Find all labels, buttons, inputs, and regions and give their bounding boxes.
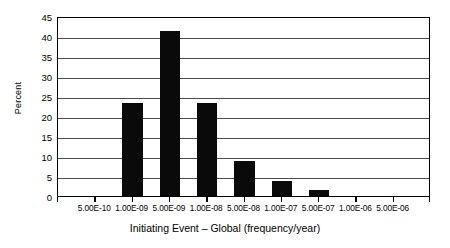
x-axis-tick	[281, 197, 282, 202]
y-axis-tick-label: 45	[41, 12, 52, 23]
bar	[197, 103, 218, 196]
bar	[309, 190, 330, 196]
y-axis-tick-label: 25	[41, 92, 52, 103]
x-axis-tick-label: 5.00E-10	[78, 203, 111, 213]
bar-chart-figure: Percent 051015202530354045 5.00E-101.00E…	[0, 0, 450, 248]
bar	[160, 31, 181, 196]
x-axis-tick-label: 1.00E-07	[264, 203, 297, 213]
y-axis-tick-labels: 051015202530354045	[26, 17, 52, 197]
x-axis-tick	[169, 197, 170, 202]
y-axis-tick-label: 20	[41, 112, 52, 123]
y-axis-tick-label: 5	[47, 172, 52, 183]
bar	[234, 161, 255, 196]
x-axis-tick-label: 5.00E-06	[376, 203, 409, 213]
x-axis-tick-label: 1.00E-08	[190, 203, 223, 213]
x-axis-tick-labels: 5.00E-101.00E-095.00E-091.00E-085.00E-08…	[57, 203, 430, 217]
x-axis-tick	[94, 197, 95, 202]
bar	[122, 103, 143, 196]
y-axis-tick-label: 10	[41, 152, 52, 163]
y-axis-title: Percent	[10, 0, 26, 196]
x-axis-tick	[318, 197, 319, 202]
y-axis-tick-label: 15	[41, 132, 52, 143]
x-axis-tick	[206, 197, 207, 202]
x-axis-tick	[393, 197, 394, 202]
x-axis-tick	[244, 197, 245, 202]
x-axis-ticks	[57, 197, 430, 202]
y-axis-tick-label: 30	[41, 72, 52, 83]
bar	[272, 181, 293, 196]
x-axis-tick	[429, 197, 430, 202]
y-axis-tick-label: 35	[41, 52, 52, 63]
x-axis-tick-label: 5.00E-07	[302, 203, 335, 213]
y-axis-tick-label: 0	[47, 192, 52, 203]
x-axis-tick-label: 5.00E-08	[227, 203, 260, 213]
x-axis-tick	[57, 197, 58, 202]
x-axis-tick-label: 1.00E-09	[115, 203, 148, 213]
y-axis-tick-label: 40	[41, 32, 52, 43]
x-axis-title: Initiating Event – Global (frequency/yea…	[0, 222, 450, 234]
bar-series	[58, 18, 429, 196]
x-axis-tick	[132, 197, 133, 202]
y-axis-title-text: Percent	[13, 82, 23, 114]
x-axis-tick-label: 1.00E-06	[339, 203, 372, 213]
x-axis-tick	[355, 197, 356, 202]
x-axis-tick-label: 5.00E-09	[152, 203, 185, 213]
plot-area	[57, 17, 430, 197]
